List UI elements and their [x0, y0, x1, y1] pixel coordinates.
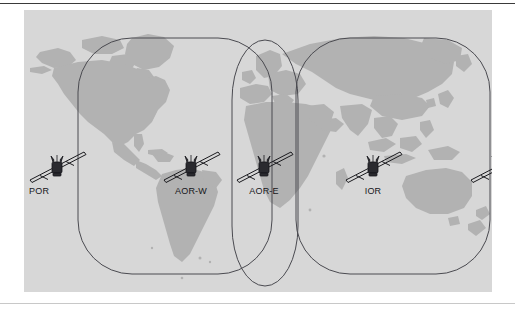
landmass-kamchatka	[456, 54, 472, 72]
landmass-central-europe	[268, 70, 306, 96]
landmass-florida	[134, 134, 144, 152]
satellite-icon	[467, 146, 492, 186]
landmass-speck-2	[209, 261, 211, 263]
top-divider-rule	[0, 3, 515, 4]
landmass-arctic-islands	[82, 36, 124, 54]
landmass-iberia-france	[240, 84, 272, 104]
landmass-north-america	[52, 60, 170, 146]
landmass-speck-1	[199, 257, 202, 260]
satellite-icon	[342, 146, 404, 186]
satellite-label: AOR-W	[160, 186, 222, 197]
landmass-central-america	[136, 160, 162, 180]
world-map-panel: POR AOR-W	[24, 10, 492, 292]
satellite-label: POR	[26, 186, 88, 197]
satellite-label: IOR	[342, 186, 404, 197]
landmass-speck-4	[322, 154, 325, 157]
landmass-new-zealand-south	[468, 220, 486, 236]
landmass-australia	[402, 168, 472, 214]
satellite-label: AOR-E	[233, 186, 295, 197]
landmass-speck-5	[309, 209, 312, 212]
landmass-china	[370, 94, 430, 120]
landmass-speck-3	[151, 247, 153, 249]
landmass-british-isles	[242, 70, 256, 84]
bottom-divider-rule	[0, 303, 515, 304]
satellite-icon	[233, 146, 295, 186]
satellite-label: POR	[467, 186, 492, 197]
landmass-india	[340, 104, 372, 136]
satellite-marker-por-east[interactable]: POR	[467, 146, 492, 197]
satellite-marker-aor-west[interactable]: AOR-W	[160, 146, 222, 197]
satellite-icon	[160, 146, 222, 186]
satellite-marker-aor-east[interactable]: AOR-E	[233, 146, 295, 197]
satellite-icon	[26, 146, 88, 186]
coverage-map-figure: POR AOR-W	[0, 0, 515, 312]
landmass-new-guinea	[428, 146, 460, 160]
landmass-aleutians	[30, 66, 52, 74]
landmass-japan	[438, 90, 454, 108]
landmass-se-asia	[374, 116, 398, 138]
landmass-philippines	[420, 120, 434, 138]
landmass-tasmania	[448, 216, 460, 226]
landmass-new-zealand-north	[476, 206, 490, 220]
landmass-speck-6	[181, 277, 184, 280]
satellite-marker-por-west[interactable]: POR	[26, 146, 88, 197]
satellite-marker-ior[interactable]: IOR	[342, 146, 404, 197]
